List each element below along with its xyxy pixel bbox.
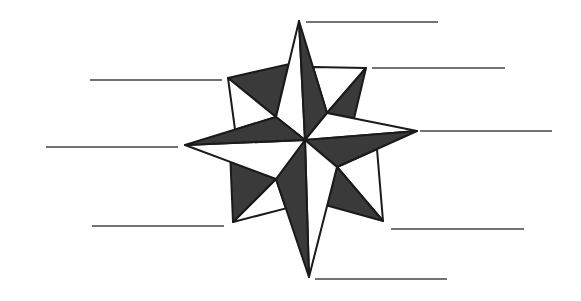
- compass-rose-worksheet: [0, 0, 581, 301]
- compass-rose-diagram: [0, 0, 581, 301]
